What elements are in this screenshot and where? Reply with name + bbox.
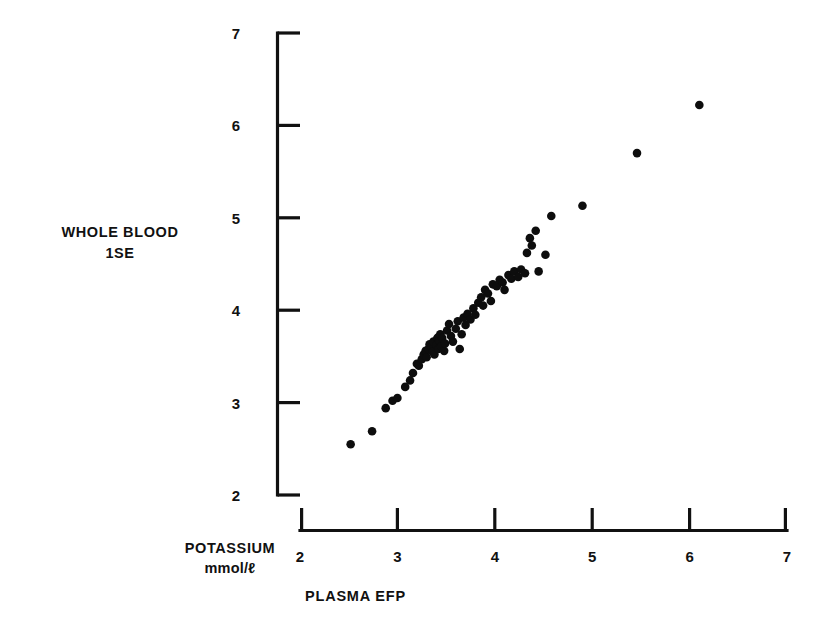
data-point bbox=[393, 394, 402, 403]
x-tick-label-2: 2 bbox=[296, 548, 304, 565]
data-point bbox=[695, 101, 704, 110]
data-point bbox=[500, 286, 509, 295]
x-tick-label-6: 6 bbox=[685, 548, 693, 565]
data-point bbox=[528, 241, 537, 250]
data-point bbox=[455, 345, 464, 354]
data-point bbox=[440, 347, 449, 356]
x-axis-ticks bbox=[302, 508, 786, 531]
data-point bbox=[531, 226, 540, 235]
y-axis-ticks bbox=[278, 33, 301, 495]
data-point bbox=[534, 267, 543, 276]
data-point bbox=[484, 289, 493, 298]
y-tick-label-7: 7 bbox=[232, 25, 240, 42]
data-point bbox=[487, 297, 496, 306]
x-tick-label-4: 4 bbox=[491, 548, 500, 565]
x-axis-tick-labels: 234567 bbox=[296, 548, 791, 565]
data-point bbox=[457, 330, 466, 339]
x-tick-label-5: 5 bbox=[588, 548, 596, 565]
data-point bbox=[541, 250, 550, 259]
data-point bbox=[381, 404, 390, 413]
x-tick-label-3: 3 bbox=[393, 548, 401, 565]
data-point bbox=[498, 278, 507, 287]
data-point bbox=[523, 249, 532, 258]
plot-surface: 234567 234567 bbox=[0, 0, 821, 630]
data-point bbox=[346, 440, 355, 449]
data-point bbox=[633, 149, 642, 158]
data-point bbox=[521, 269, 530, 278]
x-tick-label-7: 7 bbox=[783, 548, 791, 565]
data-point bbox=[409, 369, 418, 378]
data-point bbox=[479, 301, 488, 310]
scatter-plot-figure: WHOLE BLOOD 1SE POTASSIUM mmol/ℓ PLASMA … bbox=[0, 0, 821, 630]
y-tick-label-2: 2 bbox=[232, 487, 240, 504]
y-axis: 234567 bbox=[232, 25, 300, 504]
x-axis: 234567 bbox=[296, 508, 791, 565]
y-tick-label-5: 5 bbox=[232, 210, 240, 227]
data-point bbox=[406, 376, 415, 385]
y-tick-label-3: 3 bbox=[232, 395, 240, 412]
data-point bbox=[449, 337, 458, 346]
y-axis-tick-labels: 234567 bbox=[232, 25, 241, 504]
y-tick-label-6: 6 bbox=[232, 117, 240, 134]
data-point bbox=[441, 339, 450, 348]
data-point bbox=[471, 311, 480, 320]
scatter-points bbox=[346, 101, 703, 449]
data-point bbox=[547, 212, 556, 221]
y-tick-label-4: 4 bbox=[232, 302, 241, 319]
data-point bbox=[526, 234, 535, 243]
data-point bbox=[578, 201, 587, 210]
data-point bbox=[368, 427, 377, 436]
